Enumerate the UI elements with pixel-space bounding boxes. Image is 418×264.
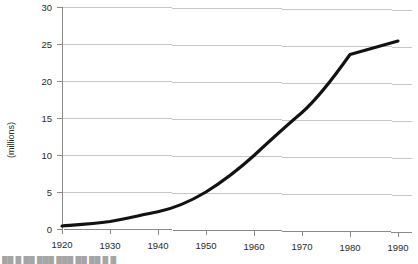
y-tick-label: 20 bbox=[41, 76, 52, 87]
gridline-10 bbox=[62, 155, 412, 158]
y-axis-title: (millions) bbox=[6, 122, 16, 158]
y-axis-tickmarks bbox=[57, 7, 62, 229]
gridline-25 bbox=[62, 44, 412, 47]
y-axis-tick-labels: 30 25 20 15 10 5 0 bbox=[41, 2, 52, 235]
data-series-line bbox=[62, 41, 398, 226]
y-tick-label: 30 bbox=[41, 2, 52, 13]
x-tick-label: 1990 bbox=[387, 242, 408, 253]
x-axis-tick-labels: 1920 1930 1940 1950 1960 1970 1980 1990 bbox=[51, 239, 408, 253]
gridline-20 bbox=[62, 81, 412, 84]
y-tick-label: 25 bbox=[41, 39, 52, 50]
y-tick-label: 5 bbox=[47, 187, 52, 198]
x-tick-label: 1980 bbox=[339, 242, 360, 253]
line-chart-figure: 30 25 20 15 10 5 0 1920 1930 1940 1950 1… bbox=[0, 0, 418, 264]
gridlines bbox=[62, 7, 412, 195]
y-tick-label: 15 bbox=[41, 113, 52, 124]
x-tick-label: 1940 bbox=[147, 240, 168, 251]
x-tick-label: 1930 bbox=[99, 240, 120, 251]
x-tick-label: 1950 bbox=[195, 240, 216, 251]
gridline-15 bbox=[62, 118, 412, 121]
x-tick-label: 1970 bbox=[291, 241, 312, 252]
gridline-5 bbox=[62, 192, 412, 195]
y-tick-label: 0 bbox=[47, 224, 52, 235]
x-tick-label: 1920 bbox=[51, 239, 72, 250]
y-tick-label: 10 bbox=[41, 150, 52, 161]
gridline-30 bbox=[62, 7, 412, 10]
x-axis-spine bbox=[62, 229, 412, 232]
figure-caption-fragment: ██ █ ██ ███ ███ ██ ██ █ █ bbox=[2, 256, 202, 264]
chart-canvas: 30 25 20 15 10 5 0 1920 1930 1940 1950 1… bbox=[0, 0, 418, 264]
x-tick-label: 1960 bbox=[243, 241, 264, 252]
